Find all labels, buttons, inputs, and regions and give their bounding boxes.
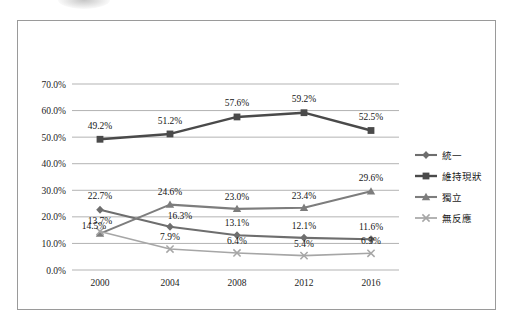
data-point-label: 11.6% <box>359 222 383 232</box>
data-point-label: 57.6% <box>225 98 250 108</box>
y-axis-tick-label: 50.0% <box>41 133 66 143</box>
y-axis-tick-label: 40.0% <box>41 159 66 169</box>
legend-label: 無反應 <box>442 213 472 224</box>
data-point-marker-diamond <box>422 151 430 159</box>
x-axis-tick-label: 2000 <box>91 278 110 288</box>
data-point-label: 12.1% <box>292 221 317 231</box>
y-axis-tick-label: 10.0% <box>41 239 66 249</box>
chart-legend: 統一維持現狀獨立無反應 <box>415 150 482 224</box>
data-point-marker-diamond <box>166 223 174 231</box>
data-point-label: 22.7% <box>88 191 113 201</box>
data-point-label: 24.6% <box>158 187 183 197</box>
data-point-marker-square <box>368 127 375 134</box>
x-axis-tick-label: 2008 <box>228 278 247 288</box>
x-axis-tick-label: 2016 <box>362 278 381 288</box>
data-point-marker-square <box>167 131 174 138</box>
x-axis-tick-label: 2012 <box>295 278 314 288</box>
data-point-label: 29.6% <box>359 173 384 183</box>
x-axis-tick-labels: 20002004200820122016 <box>91 278 381 288</box>
legend-label: 統一 <box>442 150 462 161</box>
y-axis-tick-label: 70.0% <box>41 80 66 90</box>
y-axis-tick-labels: 70.0%60.0%50.0%40.0%30.0%20.0%10.0%0.0% <box>41 80 66 276</box>
y-axis-tick-label: 0.0% <box>46 266 66 276</box>
legend-item-4[interactable]: 無反應 <box>415 213 472 224</box>
data-point-label: 5.4% <box>294 239 314 249</box>
data-point-label: 6.3% <box>361 236 381 246</box>
legend-item-3[interactable]: 獨立 <box>415 192 462 203</box>
data-point-label: 52.5% <box>359 112 384 122</box>
data-point-marker-square <box>423 173 430 180</box>
data-point-label: 6.4% <box>227 236 247 246</box>
data-point-marker-square <box>301 109 308 116</box>
legend-item-2[interactable]: 維持現狀 <box>415 171 482 182</box>
legend-label: 維持現狀 <box>442 171 482 182</box>
data-point-marker-diamond <box>96 206 104 214</box>
data-point-label: 14.5% <box>82 221 107 231</box>
legend-label: 獨立 <box>442 192 462 203</box>
x-axis-tick-label: 2004 <box>161 278 180 288</box>
data-point-label: 16.3% <box>168 211 193 221</box>
data-point-label: 13.1% <box>225 218 250 228</box>
chart-plot-container: 70.0%60.0%50.0%40.0%30.0%20.0%10.0%0.0% … <box>0 0 511 325</box>
data-point-marker-triangle <box>367 187 375 194</box>
data-point-label: 51.2% <box>158 116 183 126</box>
data-point-label: 7.9% <box>160 232 180 242</box>
data-point-marker-square <box>234 114 241 121</box>
legend-item-1[interactable]: 統一 <box>415 150 462 161</box>
data-point-label: 49.2% <box>88 121 113 131</box>
data-point-label: 23.0% <box>225 192 250 202</box>
y-axis-tick-label: 20.0% <box>41 212 66 222</box>
series-square <box>97 109 375 142</box>
y-axis-tick-label: 30.0% <box>41 186 66 196</box>
data-point-marker-square <box>97 136 104 143</box>
data-point-label: 23.4% <box>292 191 317 201</box>
y-axis-tick-label: 60.0% <box>41 106 66 116</box>
line-chart: 70.0%60.0%50.0%40.0%30.0%20.0%10.0%0.0% … <box>0 0 511 325</box>
data-point-label: 59.2% <box>292 94 317 104</box>
